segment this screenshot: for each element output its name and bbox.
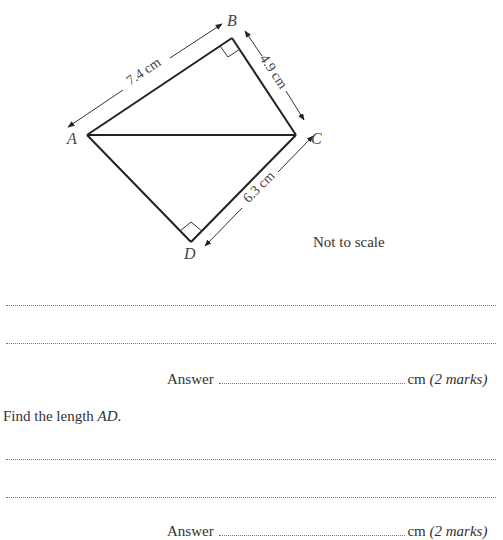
side-cd — [191, 135, 296, 242]
answer-row-b: Answer cm (2 marks) — [167, 523, 487, 540]
working-line[interactable] — [6, 343, 496, 344]
working-line[interactable] — [6, 305, 496, 306]
unit-label: cm — [407, 371, 425, 387]
vertex-label-c: C — [311, 130, 322, 148]
working-line[interactable] — [6, 459, 496, 460]
working-line[interactable] — [6, 497, 496, 498]
length-bc-label: 4.9 cm — [257, 51, 291, 91]
marks-label: (2 marks) — [429, 371, 487, 387]
length-ab-label: 7.4 cm — [123, 54, 163, 88]
side-bc — [232, 38, 296, 135]
question-b: Find the length AD. — [3, 408, 121, 425]
vertex-label-a: A — [67, 130, 77, 148]
answer-row-a: Answer cm (2 marks) — [167, 371, 487, 388]
answer-field-a[interactable] — [219, 371, 405, 384]
right-angle-b — [220, 46, 240, 57]
vertex-label-d: D — [184, 245, 196, 263]
side-da — [87, 135, 191, 242]
not-to-scale-note: Not to scale — [313, 234, 385, 251]
answer-label: Answer — [167, 523, 214, 539]
right-angle-d — [180, 222, 202, 231]
answer-label: Answer — [167, 371, 214, 387]
marks-label: (2 marks) — [429, 523, 487, 539]
unit-label: cm — [407, 523, 425, 539]
vertex-label-b: B — [227, 12, 237, 30]
side-ab — [87, 38, 232, 135]
answer-field-b[interactable] — [219, 523, 405, 536]
